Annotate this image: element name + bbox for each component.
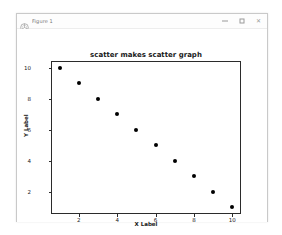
scatter-point — [58, 66, 62, 70]
scatter-point — [192, 174, 196, 178]
y-tick-label: 4 — [28, 158, 32, 164]
y-axis-label: Y Label — [23, 114, 29, 137]
y-tick-mark — [49, 192, 52, 193]
close-button[interactable]: ✕ — [250, 14, 267, 28]
scatter-point — [173, 159, 177, 163]
close-icon: ✕ — [256, 18, 261, 24]
x-tick-label: 2 — [77, 217, 81, 223]
x-tick-label: 10 — [229, 217, 236, 223]
maximize-icon — [239, 19, 244, 24]
figure-canvas: scatter makes scatter graph Y Label X La… — [17, 29, 267, 222]
y-tick-label: 6 — [28, 127, 32, 133]
scatter-point — [230, 205, 234, 209]
figure-window: Figure 1 ✕ scatter makes scatter graph Y… — [16, 13, 268, 222]
chart-title: scatter makes scatter graph — [51, 51, 241, 59]
window-titlebar[interactable]: Figure 1 ✕ — [17, 14, 267, 29]
window-title: Figure 1 — [32, 18, 216, 24]
y-tick-mark — [49, 161, 52, 162]
scatter-point — [77, 81, 81, 85]
y-tick-mark — [49, 130, 52, 131]
minimize-icon — [222, 21, 228, 22]
y-tick-mark — [49, 99, 52, 100]
scatter-point — [96, 97, 100, 101]
minimize-button[interactable] — [216, 14, 233, 28]
matplotlib-logo-icon — [20, 17, 29, 26]
scatter-point — [154, 143, 158, 147]
y-tick-mark — [49, 68, 52, 69]
scatter-point — [134, 128, 138, 132]
y-tick-label: 10 — [24, 65, 31, 71]
x-tick-label: 6 — [154, 217, 158, 223]
scatter-point — [115, 112, 119, 116]
scatter-point — [211, 190, 215, 194]
x-tick-label: 4 — [115, 217, 119, 223]
y-tick-label: 8 — [28, 96, 32, 102]
maximize-button[interactable] — [233, 14, 250, 28]
y-tick-label: 2 — [28, 189, 32, 195]
x-tick-label: 8 — [192, 217, 196, 223]
